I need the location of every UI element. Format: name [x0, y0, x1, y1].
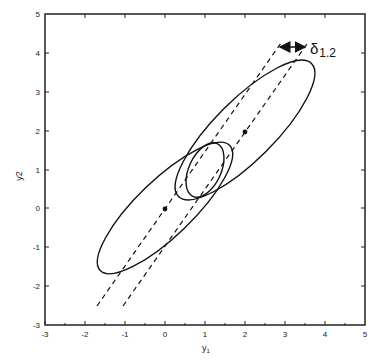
x-tick-label: 4: [323, 330, 328, 339]
chart: -3 -2 -1 0 1 2 3 4 5 5 4 3 2 1 0 -1 -2 -…: [0, 0, 379, 364]
x-tick-label: 2: [243, 330, 248, 339]
ellipse-small: [178, 137, 232, 203]
center-point-2: [243, 130, 248, 135]
y-tick-label: 0: [36, 204, 41, 213]
y-tick-label: 5: [36, 10, 41, 19]
y-tick-label: 3: [36, 88, 41, 97]
x-tick-label: 1: [203, 330, 208, 339]
x-tick-label: 3: [283, 330, 288, 339]
x-tick-label: -3: [41, 330, 49, 339]
y-tick-label: -2: [33, 282, 41, 291]
y-tick-label: -3: [33, 321, 41, 330]
x-tick-label: 0: [163, 330, 168, 339]
x-tick-label: -1: [121, 330, 129, 339]
y-tick-label: -1: [33, 243, 41, 252]
center-point-1: [163, 207, 168, 212]
x-axis-label: y1: [202, 343, 211, 354]
y-tick-label: 2: [36, 127, 41, 136]
x-tick-label: -2: [81, 330, 89, 339]
delta-label: δ1.2: [310, 40, 336, 60]
dashed-line-1: [97, 43, 281, 306]
plot-frame: [45, 14, 365, 325]
y-axis-label: y2: [14, 171, 24, 181]
x-tick-label: 5: [363, 330, 368, 339]
dashed-line-2: [123, 41, 309, 306]
y-tick-label: 1: [36, 166, 41, 175]
y-axis: [45, 53, 365, 286]
y-tick-label: 4: [36, 49, 41, 58]
